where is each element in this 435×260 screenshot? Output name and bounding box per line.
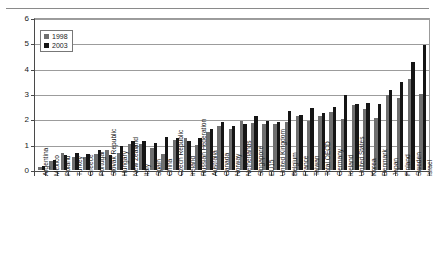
bar-group	[305, 19, 316, 170]
bar-group	[148, 19, 159, 170]
bar-series-container	[36, 19, 428, 170]
y-tick-label-4: 4	[25, 66, 29, 74]
x-label-cell: Germany	[328, 176, 339, 258]
x-axis-label: Portugal	[99, 151, 106, 176]
x-axis-label: Slovak Republic	[110, 129, 117, 176]
x-label-cell: Australia	[204, 176, 215, 258]
top-divider-rule	[6, 8, 429, 9]
bar-group	[215, 19, 226, 170]
chart-figure: 0123456 ArgentinaMexicoPolandTurkeyGreec…	[0, 0, 435, 260]
x-label-cell: Mexico	[45, 176, 56, 258]
x-label-cell: United Kingdom	[272, 176, 283, 258]
bar-group	[81, 19, 92, 170]
x-label-cell: Singapore	[249, 176, 260, 258]
y-tick-label-6: 6	[25, 15, 29, 23]
x-label-cell: Russian Federation	[192, 176, 203, 258]
y-tick-mark-3	[31, 95, 35, 96]
x-label-cell: Spain	[147, 176, 158, 258]
legend-label-1998: 1998	[52, 33, 68, 40]
bar-group	[338, 19, 349, 170]
y-tick-label-2: 2	[25, 116, 29, 124]
x-axis-label: Mexico	[54, 155, 61, 176]
bar-group	[372, 19, 383, 170]
y-tick-mark-1	[31, 146, 35, 147]
legend-label-2003: 2003	[52, 42, 68, 49]
x-label-cell: Iceland	[339, 176, 350, 258]
y-tick-mark-6	[31, 19, 35, 20]
legend-item-1998: 1998	[44, 33, 68, 40]
x-axis-label: Russian Federation	[201, 119, 208, 176]
x-axis-label: United Kingdom	[280, 129, 287, 176]
x-label-cell: Hungary	[113, 176, 124, 258]
x-axis-label: Germany	[336, 149, 343, 176]
bar-group	[417, 19, 428, 170]
y-tick-label-0: 0	[25, 167, 29, 175]
y-tick-mark-2	[31, 120, 35, 121]
x-label-cell: China	[158, 176, 169, 258]
x-axis-label: Belgium	[291, 152, 298, 176]
bar-group	[159, 19, 170, 170]
x-label-cell: EU15	[260, 176, 271, 258]
x-axis-label: Czech Republic	[178, 130, 185, 176]
x-label-cell: Italy	[136, 176, 147, 258]
x-axis-label: Sweden	[416, 152, 423, 176]
x-label-cell: Canada	[215, 176, 226, 258]
legend-item-2003: 2003	[44, 42, 68, 49]
bar-2003	[423, 45, 426, 170]
x-axis-label: Hungary	[121, 151, 128, 176]
x-label-cell: Sweden	[407, 176, 418, 258]
y-tick-label-1: 1	[25, 142, 29, 150]
x-label-cell: Total OECD	[317, 176, 328, 258]
x-axis-label: France	[302, 155, 309, 176]
x-label-cell: Ireland	[181, 176, 192, 258]
x-label-cell: Finland	[396, 176, 407, 258]
x-label-cell: France	[294, 176, 305, 258]
x-axis-label: New Zealand	[133, 137, 140, 176]
y-tick-mark-5	[31, 44, 35, 45]
x-axis-label: China	[167, 159, 174, 176]
x-axis-label: Netherlands	[246, 140, 253, 176]
x-axis-label: Finland	[404, 154, 411, 176]
x-axis-label: Korea	[370, 158, 377, 176]
x-axis-label: Denmark	[382, 149, 389, 176]
bar-group	[92, 19, 103, 170]
x-axis-label: Turkey	[76, 156, 83, 176]
x-label-cell: Portugal	[91, 176, 102, 258]
x-label-cell: Poland	[57, 176, 68, 258]
x-axis-label: Spain	[155, 159, 162, 176]
x-axis-label: Japan	[393, 158, 400, 176]
x-label-cell: Norway	[226, 176, 237, 258]
x-axis-label: Iceland	[348, 155, 355, 176]
x-axis-label: Total OECD	[325, 141, 332, 176]
y-tick-label-5: 5	[25, 40, 29, 48]
x-axis-label: Argentina	[42, 148, 49, 176]
x-label-cell: Israel	[419, 176, 430, 258]
y-tick-label-3: 3	[25, 91, 29, 99]
bar-group	[294, 19, 305, 170]
bar-group	[406, 19, 417, 170]
x-label-cell: Taiwan	[306, 176, 317, 258]
x-label-cell: Netherlands	[238, 176, 249, 258]
x-axis-label: Poland	[65, 155, 72, 176]
x-label-cell: Belgium	[283, 176, 294, 258]
x-label-cell: Japan	[385, 176, 396, 258]
x-label-cell: New Zealand	[125, 176, 136, 258]
x-axis-label: Israel	[427, 160, 434, 176]
x-label-cell: Turkey	[68, 176, 79, 258]
bar-group	[383, 19, 394, 170]
x-axis-label: United States	[359, 136, 366, 176]
x-axis-label: Italy	[144, 164, 151, 176]
x-label-cell: United States	[351, 176, 362, 258]
bar-group	[226, 19, 237, 170]
x-axis-label: Singapore	[257, 146, 264, 176]
chart-legend: 1998 2003	[40, 30, 73, 52]
x-axis-label: Ireland	[189, 156, 196, 176]
bar-group	[395, 19, 406, 170]
x-axis-label: Norway	[235, 154, 242, 176]
x-label-cell: Czech Republic	[170, 176, 181, 258]
x-label-cell: Greece	[79, 176, 90, 258]
x-label-cell: Argentina	[34, 176, 45, 258]
legend-swatch-1998	[44, 34, 49, 39]
plot-area: 0123456	[34, 18, 430, 172]
x-label-cell: Slovak Republic	[102, 176, 113, 258]
